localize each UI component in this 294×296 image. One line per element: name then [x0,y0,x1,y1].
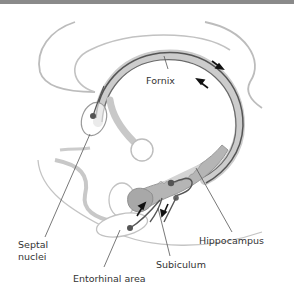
brainstem-outline [55,160,115,222]
label-subiculum: Subiculum [156,259,206,270]
label-septal-nuclei-line2: nuclei [18,251,46,262]
entorhinal-region [94,209,149,241]
label-fornix: Fornix [146,75,175,86]
mammillary-body [131,139,153,161]
leader-subiculum [158,208,170,256]
subiculum-blob [128,188,153,212]
arrow-subiculum-down [161,204,168,216]
diagram-canvas: Fornix Septal nuclei Hippocampus Subicul… [0,0,294,296]
fornix-column [110,100,134,142]
label-septal-nuclei-line1: Septal [18,239,48,250]
ventricle-line [60,148,90,150]
arrow-fornix-incoming [197,79,208,88]
label-entorhinal-area: Entorhinal area [73,273,146,284]
label-hippocampus: Hippocampus [199,235,264,246]
